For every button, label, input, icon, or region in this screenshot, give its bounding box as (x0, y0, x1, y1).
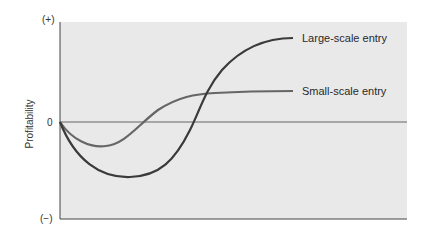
legend-large-scale: Large-scale entry (302, 32, 387, 44)
y-tick-top: (+) (42, 14, 55, 25)
y-axis-label: Profitability (24, 100, 35, 149)
plot-area (60, 22, 407, 219)
chart: (+) 0 (−) Profitability Large-scale entr… (0, 0, 427, 238)
y-tick-zero: 0 (47, 117, 53, 128)
y-tick-bottom: (−) (40, 213, 53, 224)
legend-small-scale: Small-scale entry (302, 85, 387, 97)
